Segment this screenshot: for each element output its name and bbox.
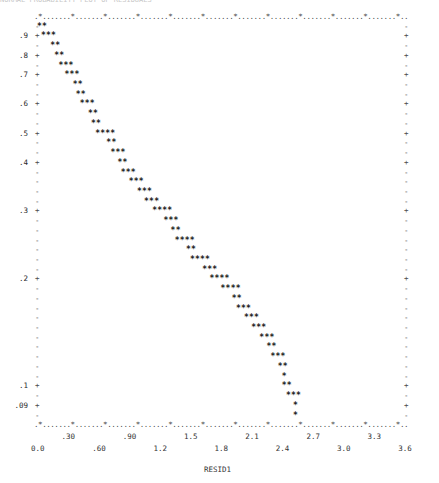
y-axis-minor-tick-right: - [404, 62, 409, 70]
y-axis-major-tick-right: + [404, 52, 409, 60]
data-point-group: *** [244, 314, 259, 322]
data-point-group: ** [186, 246, 196, 254]
y-axis-minor-tick: - [35, 198, 40, 206]
y-axis-minor-tick-right: - [404, 324, 409, 332]
y-axis-minor-tick-right: - [404, 343, 409, 351]
y-axis-major-tick: + [35, 71, 40, 79]
y-axis-minor-tick-right: - [404, 91, 409, 99]
y-axis-major-tick: + [35, 402, 40, 410]
y-axis-major-tick-right: + [404, 32, 409, 40]
y-axis-minor-tick-right: - [404, 256, 409, 264]
y-tick-label: .09 [4, 402, 28, 410]
data-point-group: **** [209, 275, 229, 283]
data-point-group: *** [137, 188, 152, 196]
y-axis-minor-tick-right: - [404, 305, 409, 313]
y-axis-minor-tick: - [35, 334, 40, 342]
data-point-group: ** [106, 139, 116, 147]
plot-bottom-border: .*.......*.......*.......*.......*......… [34, 421, 408, 429]
data-point-group: *** [58, 62, 73, 70]
y-axis-major-tick: + [35, 32, 40, 40]
data-point-group: **** [152, 207, 172, 215]
y-axis-minor-tick: - [35, 217, 40, 225]
data-point-group: ** [278, 363, 288, 371]
data-point-group: * [293, 402, 298, 410]
y-axis-minor-tick: - [35, 227, 40, 235]
y-axis-minor-tick: - [35, 91, 40, 99]
y-axis-minor-tick-right: - [404, 149, 409, 157]
data-point-group: *** [286, 392, 301, 400]
y-axis-minor-tick: - [35, 324, 40, 332]
x-tick-label: .90 [123, 433, 137, 441]
y-axis-minor-tick-right: - [404, 412, 409, 420]
data-point-group: *** [41, 32, 56, 40]
data-point-group: ** [282, 382, 292, 390]
y-axis-major-tick-right: + [404, 402, 409, 410]
data-point-group: ** [91, 120, 101, 128]
x-tick-label: 0.0 [31, 445, 45, 453]
y-axis-minor-tick: - [35, 246, 40, 254]
y-axis-major-tick-right: + [404, 130, 409, 138]
data-point-group: *** [271, 353, 286, 361]
x-tick-label: .60 [92, 445, 106, 453]
y-axis-major-tick-right: + [404, 207, 409, 215]
y-axis-minor-tick: - [35, 188, 40, 196]
y-axis-minor-tick: - [35, 149, 40, 157]
data-point-group: **** [175, 237, 195, 245]
y-tick-label: .4 [4, 159, 28, 167]
x-tick-label: 3.0 [337, 445, 351, 453]
y-axis-minor-tick: - [35, 110, 40, 118]
y-axis-minor-tick: - [35, 169, 40, 177]
y-axis-minor-tick-right: - [404, 246, 409, 254]
y-axis-minor-tick: - [35, 363, 40, 371]
data-point-group: **** [95, 130, 115, 138]
y-axis-minor-tick-right: - [404, 266, 409, 274]
y-tick-label: .5 [4, 130, 28, 138]
y-axis-major-tick: + [35, 382, 40, 390]
x-tick-label: 2.1 [245, 433, 259, 441]
x-tick-label: 1.8 [215, 445, 229, 453]
y-axis-major-tick-right: + [404, 275, 409, 283]
y-axis-minor-tick-right: - [404, 139, 409, 147]
y-axis-minor-tick-right: - [404, 169, 409, 177]
y-axis-minor-tick-right: - [404, 237, 409, 245]
data-point-group: *** [236, 305, 251, 313]
y-axis-minor-tick-right: - [404, 178, 409, 186]
y-axis-minor-tick: - [35, 373, 40, 381]
x-tick-label: 1.2 [153, 445, 167, 453]
y-axis-minor-tick: - [35, 62, 40, 70]
y-axis-minor-tick-right: - [404, 334, 409, 342]
y-axis-minor-tick-right: - [404, 110, 409, 118]
y-axis-minor-tick-right: - [404, 42, 409, 50]
y-axis-minor-tick-right: - [404, 227, 409, 235]
y-axis-minor-tick-right: - [404, 392, 409, 400]
y-axis-minor-tick: - [35, 237, 40, 245]
y-axis-minor-tick: - [35, 178, 40, 186]
plot-top-border: .*.......*.......*.......*.......*......… [34, 13, 408, 21]
data-point-group: *** [121, 169, 136, 177]
data-point-group: *** [129, 178, 144, 186]
data-point-group: **** [190, 256, 210, 264]
y-axis-minor-tick: - [35, 139, 40, 147]
data-point-group: ** [267, 343, 277, 351]
y-axis-minor-tick-right: - [404, 188, 409, 196]
y-axis-major-tick: + [35, 100, 40, 108]
y-axis-minor-tick-right: - [404, 314, 409, 322]
y-axis-minor-tick-right: - [404, 81, 409, 89]
data-point-group: *** [65, 71, 80, 79]
data-point-group: ** [37, 23, 47, 31]
y-axis-major-tick: + [35, 130, 40, 138]
y-axis-minor-tick: - [35, 42, 40, 50]
y-axis-minor-tick-right: - [404, 353, 409, 361]
x-tick-label: .30 [62, 433, 76, 441]
y-axis-minor-tick: - [35, 392, 40, 400]
y-axis-major-tick-right: + [404, 159, 409, 167]
y-axis-minor-tick-right: - [404, 295, 409, 303]
y-axis-minor-tick: - [35, 353, 40, 361]
y-axis-major-tick-right: + [404, 71, 409, 79]
y-axis-minor-tick: - [35, 412, 40, 420]
y-axis-minor-tick: - [35, 120, 40, 128]
y-axis-minor-tick: - [35, 81, 40, 89]
x-tick-label: 2.7 [306, 433, 320, 441]
data-point-group: *** [144, 198, 159, 206]
y-axis-major-tick: + [35, 159, 40, 167]
